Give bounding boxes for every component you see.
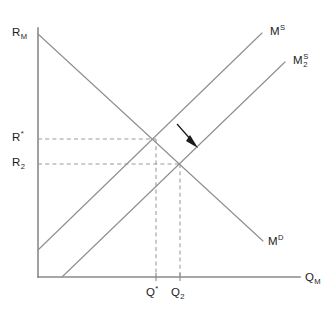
demand-label: MD [268,236,283,248]
supply-demand-figure: RM R* R2 Q* Q2 QM MS MS2 MD [0,0,334,312]
price-new-base: R [12,156,20,168]
demand-sup: D [278,233,284,242]
x-axis-label-sub: M [314,277,320,286]
price-new-label: R2 [12,157,25,169]
quantity-initial-label: Q* [146,287,158,299]
chart-canvas [0,0,334,312]
quantity-initial-sup: * [155,284,158,293]
supply-initial-sup: S [280,23,285,32]
supply-new-base: M [293,54,303,66]
supply-new-sub: 2 [303,61,307,69]
x-axis-label: QM [305,272,320,284]
quantity-new-label: Q2 [171,287,184,299]
supply-initial-label: MS [270,26,285,38]
price-initial-sup: * [21,129,24,138]
quantity-new-base: Q [171,286,180,298]
price-new-sub: 2 [21,162,25,171]
x-axis-label-base: Q [305,271,314,283]
price-initial-label: R* [12,132,23,144]
y-axis-label-sub: M [21,32,27,41]
price-initial-base: R [12,131,20,143]
supply-initial-base: M [270,25,280,37]
quantity-new-sub: 2 [180,292,184,301]
supply-shift-arrow [177,124,198,148]
y-axis-label: RM [12,27,27,39]
supply-new-label: MS2 [293,55,303,67]
supply-curve-shifted [62,62,285,277]
quantity-initial-base: Q [146,286,155,298]
y-axis-label-base: R [12,26,20,38]
demand-base: M [268,235,278,247]
supply-new-sup: S [303,53,308,61]
